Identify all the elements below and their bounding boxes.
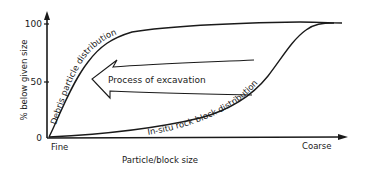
- y-axis: 100 50 0 % below given size: [19, 11, 50, 143]
- x-axis-end-label: Coarse: [302, 141, 332, 151]
- insitu-curve-label: In-situ rock block distribution: [147, 78, 260, 137]
- x-axis-arrowhead-icon: [338, 134, 348, 140]
- y-axis-title: % below given size: [19, 39, 29, 120]
- y-tick-label-50: 50: [31, 77, 43, 87]
- x-axis-start-label: Fine: [51, 142, 68, 152]
- y-tick-label-100: 100: [25, 19, 42, 29]
- x-axis-line: [47, 137, 342, 138]
- y-axis-arrowhead-icon: [44, 11, 50, 20]
- x-axis: Fine Coarse Particle/block size: [47, 134, 348, 165]
- excavation-arrow-label: Process of excavation: [108, 75, 206, 85]
- x-axis-title: Particle/block size: [122, 155, 198, 165]
- y-tick-label-0: 0: [36, 133, 42, 143]
- excavation-size-distribution-diagram: 100 50 0 % below given size Fine Coarse …: [0, 0, 365, 174]
- excavation-arrow: Process of excavation: [92, 60, 254, 98]
